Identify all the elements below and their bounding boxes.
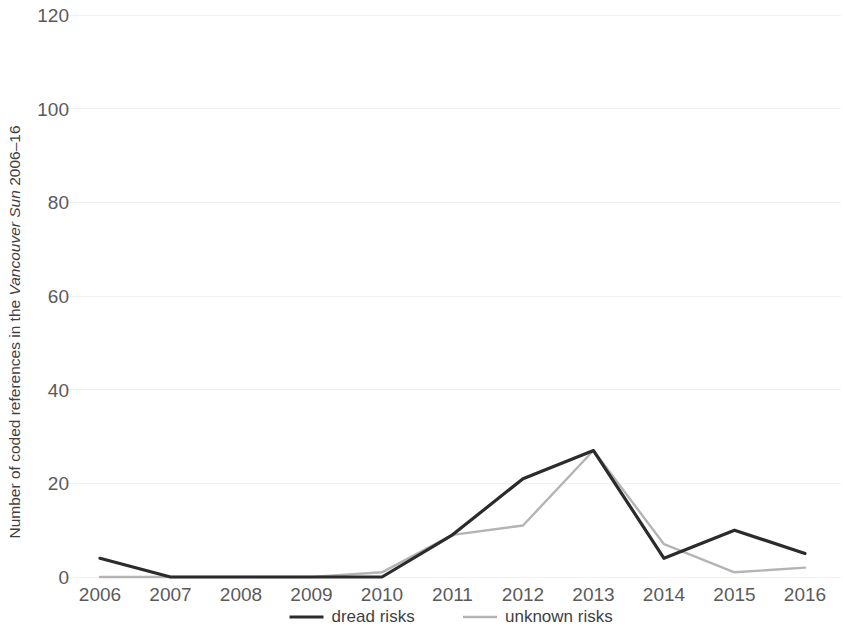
legend-label-dread-risks: dread risks xyxy=(332,607,415,626)
series-line-unknown-risks xyxy=(100,451,805,577)
x-axis-tick-label: 2015 xyxy=(713,584,755,605)
y-axis-tick-label: 60 xyxy=(48,286,69,307)
x-axis-tick-label: 2007 xyxy=(149,584,191,605)
y-axis-tick-label: 80 xyxy=(48,192,69,213)
x-axis-tick-label: 2016 xyxy=(784,584,826,605)
y-axis-tick-label: 40 xyxy=(48,380,69,401)
y-axis-title: Number of coded references in the Vancou… xyxy=(6,125,23,538)
y-axis-tick-label: 100 xyxy=(37,99,69,120)
y-axis-tick-labels: 020406080100120 xyxy=(37,5,69,588)
y-axis-tick-label: 120 xyxy=(37,5,69,26)
chart-legend: dread risksunknown risks xyxy=(290,607,613,626)
gridlines xyxy=(62,15,841,577)
x-axis-tick-label: 2009 xyxy=(290,584,332,605)
x-axis-tick-label: 2010 xyxy=(361,584,403,605)
line-chart: 020406080100120 200620072008200920102011… xyxy=(0,0,843,637)
y-axis-tick-label: 0 xyxy=(58,567,69,588)
y-axis-title-text: Number of coded references in the Vancou… xyxy=(6,125,23,538)
x-axis-tick-label: 2012 xyxy=(502,584,544,605)
x-axis-tick-label: 2006 xyxy=(79,584,121,605)
x-axis-tick-label: 2008 xyxy=(220,584,262,605)
x-axis-tick-label: 2013 xyxy=(572,584,614,605)
y-axis-tick-label: 20 xyxy=(48,473,69,494)
chart-container: 020406080100120 200620072008200920102011… xyxy=(0,0,843,637)
data-series-group xyxy=(100,451,805,577)
legend-label-unknown-risks: unknown risks xyxy=(505,607,613,626)
x-axis-tick-labels: 2006200720082009201020112012201320142015… xyxy=(79,584,826,605)
x-axis-tick-label: 2014 xyxy=(643,584,686,605)
x-axis-tick-label: 2011 xyxy=(432,584,473,605)
